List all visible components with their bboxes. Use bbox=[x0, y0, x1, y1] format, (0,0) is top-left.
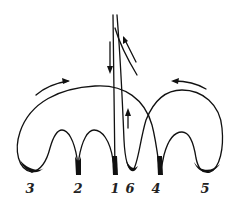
arrow-right-top bbox=[171, 78, 206, 89]
right-large-loop bbox=[133, 90, 223, 174]
cusp-3-fill bbox=[20, 160, 44, 172]
label-1: 1 bbox=[110, 182, 119, 195]
label-4: 4 bbox=[151, 182, 160, 195]
arrow-vertical-up bbox=[125, 108, 131, 128]
left-humps bbox=[32, 130, 116, 174]
arrow-left-top bbox=[36, 78, 70, 95]
label-3: 3 bbox=[25, 182, 34, 195]
loop-diagram bbox=[0, 0, 235, 211]
label-2: 2 bbox=[73, 182, 82, 195]
cusp-2-fill bbox=[75, 156, 81, 175]
arrow-vertical-down bbox=[107, 42, 113, 74]
left-large-loop bbox=[17, 86, 160, 172]
label-6: 6 bbox=[125, 182, 134, 195]
arrow-diagonal-up bbox=[123, 36, 128, 44]
vertical-line-left bbox=[113, 15, 115, 172]
label-5: 5 bbox=[200, 182, 209, 195]
